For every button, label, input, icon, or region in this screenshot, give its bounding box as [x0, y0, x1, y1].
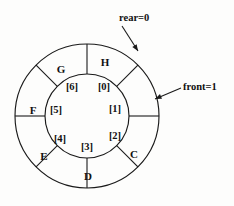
- circular-queue-diagram: HCDEFG [0][1][2][3][4][5][6] rear=0 fron…: [0, 0, 234, 206]
- slot-index-2: [2]: [109, 130, 121, 141]
- sector-divider-7: [36, 65, 57, 86]
- slot-index-5: [5]: [50, 104, 62, 115]
- slot-letter-4: E: [40, 150, 47, 162]
- slot-letter-5: F: [30, 104, 37, 116]
- annotation-leader-group: [122, 26, 181, 99]
- front-pointer-label: front=1: [183, 81, 217, 92]
- slot-index-6: [6]: [66, 81, 78, 92]
- slot-index-group: [0][1][2][3][4][5][6]: [50, 81, 121, 152]
- slot-letter-3: D: [84, 170, 92, 182]
- rear-arrowhead-icon: [132, 44, 138, 51]
- slot-letter-2: C: [130, 148, 138, 160]
- sector-divider-group: [15, 44, 159, 188]
- circular-queue-figure: HCDEFG [0][1][2][3][4][5][6] rear=0 fron…: [0, 0, 234, 206]
- slot-index-0: [0]: [98, 81, 110, 92]
- slot-index-3: [3]: [81, 141, 93, 152]
- slot-letter-6: G: [57, 63, 66, 75]
- sector-divider-1: [117, 65, 138, 86]
- slot-index-1: [1]: [109, 103, 121, 114]
- slot-index-4: [4]: [54, 133, 66, 144]
- rear-pointer-label: rear=0: [119, 12, 149, 23]
- slot-letter-0: H: [101, 56, 110, 68]
